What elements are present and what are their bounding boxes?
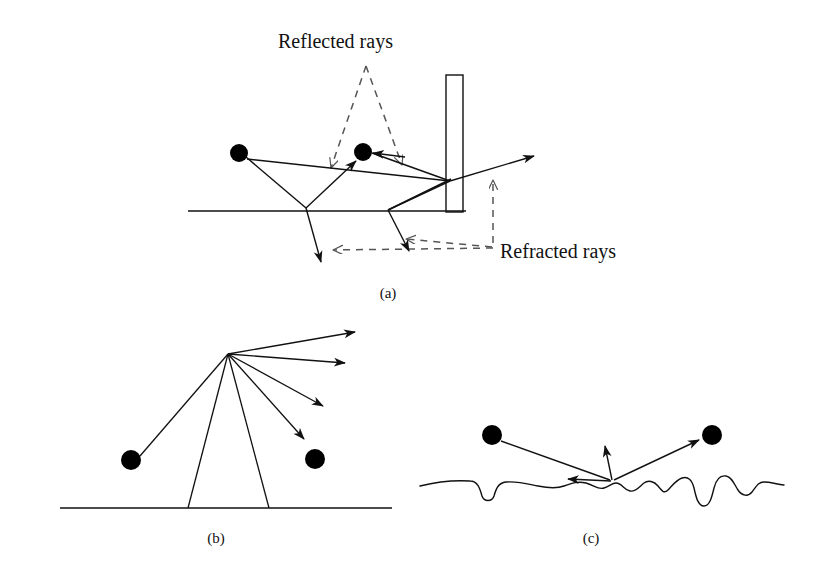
receiver-node-b (305, 449, 325, 469)
panel-label-c: (c) (583, 530, 600, 547)
refracted-rays-label: Refracted rays (500, 240, 616, 263)
figure-root: Reflected rays (0, 0, 816, 578)
figure-background (0, 0, 816, 578)
source-node-a (230, 144, 248, 162)
panel-label-a: (a) (380, 285, 397, 302)
ray-optics-figure: Reflected rays (0, 0, 816, 578)
reflected-rays-label: Reflected rays (278, 30, 393, 53)
source-node-c (482, 425, 502, 445)
panel-label-b: (b) (207, 530, 225, 547)
source-node-b (121, 450, 141, 470)
receiver-node-c (702, 425, 722, 445)
receiver-node-a (354, 143, 372, 161)
